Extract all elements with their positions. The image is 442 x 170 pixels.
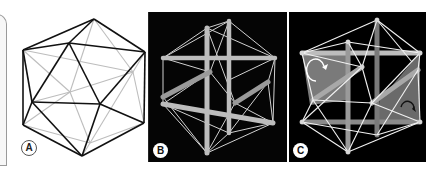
panel-label-c: C bbox=[293, 143, 308, 158]
panel-c-tensegrity-rotation: C bbox=[289, 12, 426, 162]
tensegrity-render bbox=[149, 12, 287, 162]
icosahedron-drawing bbox=[15, 8, 150, 164]
struts bbox=[163, 21, 275, 153]
panel-label-a: A bbox=[21, 140, 37, 156]
panel-b-tensegrity-render: B bbox=[149, 12, 287, 162]
shaded-planes bbox=[302, 53, 420, 122]
panel-label-b: B bbox=[153, 143, 168, 158]
left-bracket-decoration bbox=[0, 14, 7, 166]
tensegrity-rotation-diagram bbox=[289, 12, 426, 162]
panel-a-icosahedron: A bbox=[15, 8, 150, 164]
